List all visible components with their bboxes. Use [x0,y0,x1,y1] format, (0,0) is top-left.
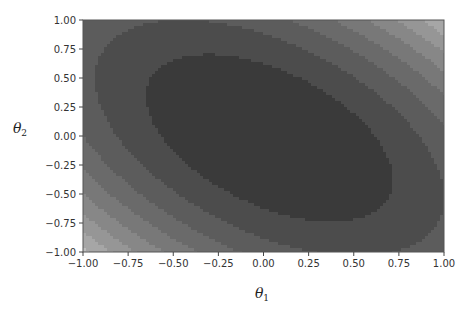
y-tick-label: −1.00 [45,247,76,258]
x-tick-label: 1.00 [433,258,455,269]
x-axis-label: θ1 [255,285,269,303]
x-tick-label: −0.25 [203,258,234,269]
y-tick-label: −0.75 [45,218,76,229]
x-tick-label: 0.25 [297,258,319,269]
x-tick-label: −0.50 [158,258,189,269]
x-tick-label: 0.75 [388,258,410,269]
y-tick-label: 1.00 [54,15,76,26]
y-axis-label: θ2 [13,120,27,138]
x-axis-ticks: −1.00−0.75−0.50−0.250.000.250.500.751.00 [68,252,455,269]
x-tick-label: −0.75 [113,258,144,269]
x-tick-label: 0.00 [252,258,274,269]
y-tick-label: −0.25 [45,160,76,171]
y-tick-label: −0.50 [45,189,76,200]
plot-area [83,20,447,255]
x-tick-label: 0.50 [343,258,365,269]
y-tick-label: 0.25 [54,102,76,113]
contour-chart: −1.00−0.75−0.50−0.250.000.250.500.751.00… [0,0,470,316]
y-axis-ticks: 1.000.750.500.250.00−0.25−0.50−0.75−1.00 [45,15,83,258]
y-tick-label: 0.00 [54,131,76,142]
x-tick-label: −1.00 [68,258,99,269]
y-tick-label: 0.75 [54,44,76,55]
y-tick-label: 0.50 [54,73,76,84]
